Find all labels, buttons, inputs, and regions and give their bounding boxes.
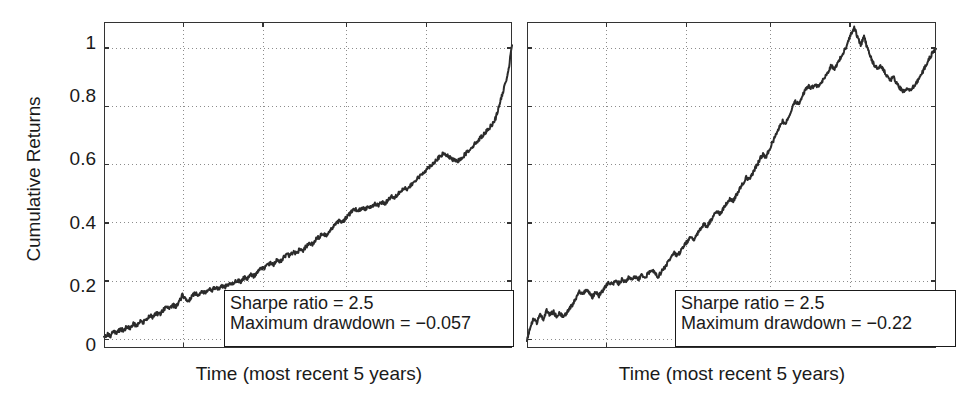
y-tick-label-0p4: 0.4 — [40, 212, 96, 234]
x-axis-label-left: Time (most recent 5 years) — [104, 363, 514, 385]
annotation-max-drawdown: Maximum drawdown = −0.057 — [230, 313, 509, 333]
chart-panel-right: Sharpe ratio = 2.5 Maximum drawdown = −0… — [520, 0, 974, 407]
y-tick-label-0p2: 0.2 — [40, 275, 96, 297]
annotation-box-right: Sharpe ratio = 2.5 Maximum drawdown = −0… — [675, 290, 956, 347]
annotation-sharpe-ratio: Sharpe ratio = 2.5 — [230, 293, 509, 313]
annotation-sharpe-ratio: Sharpe ratio = 2.5 — [681, 293, 951, 313]
chart-panel-left: Cumulative Returns 0 0.2 0.4 0.6 0.8 1 S… — [0, 0, 520, 407]
figure-container: Cumulative Returns 0 0.2 0.4 0.6 0.8 1 S… — [0, 0, 974, 407]
annotation-max-drawdown: Maximum drawdown = −0.22 — [681, 313, 951, 333]
y-tick-label-0p6: 0.6 — [40, 148, 96, 170]
y-tick-label-0p8: 0.8 — [40, 85, 96, 107]
y-tick-label-0: 0 — [50, 334, 96, 356]
y-tick-label-1: 1 — [50, 32, 96, 54]
annotation-box-left: Sharpe ratio = 2.5 Maximum drawdown = −0… — [224, 290, 514, 347]
x-axis-label-right: Time (most recent 5 years) — [527, 363, 937, 385]
